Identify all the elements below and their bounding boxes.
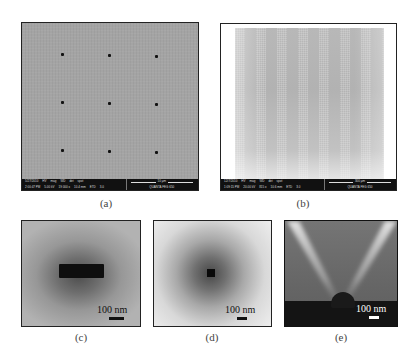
instrument-name: QUANTA FEG 650 (325, 185, 395, 191)
scale-bar-line (237, 317, 247, 320)
info-hv: 5.00 kV (42, 185, 56, 190)
info-hv: 20.00 kV (241, 185, 257, 190)
info-spot-label: spot (275, 179, 285, 184)
info-det-label: det (67, 179, 75, 184)
scale-bar: 300 µm (325, 179, 395, 185)
info-mag-label: mag (248, 179, 258, 184)
nanohole (108, 54, 111, 57)
caption-a: (a) (91, 197, 121, 209)
panel-b-sem-image: 12/7/2010 HV mag WD det spot 1:09:15 PM … (220, 23, 397, 191)
caption-d: (d) (197, 331, 227, 343)
scale-label: 300 µm (353, 179, 367, 184)
info-date: 12/7/2010 (222, 179, 239, 184)
info-spot-label: spot (76, 179, 86, 184)
rectangular-slot (59, 264, 104, 278)
info-mag-label: mag (49, 179, 59, 184)
scale-bar: 100 nm (225, 304, 255, 315)
info-spot: 3.0 (98, 185, 106, 190)
square-hole (207, 269, 215, 277)
nanohole (108, 150, 111, 153)
panel-c-slot-nanohole: 100 nm (21, 220, 141, 327)
info-det: ETD (88, 185, 98, 190)
nanohole (155, 103, 158, 106)
info-time: 1:09:15 PM (222, 185, 241, 190)
nanohole (61, 53, 64, 56)
panel-e-nanotip-cross-section: 100 nm (284, 220, 398, 327)
info-wd: 10.4 mm (72, 185, 88, 190)
info-wd-label: WD (58, 179, 67, 184)
scale-label: 10 µm (156, 179, 168, 184)
info-det: ETD (284, 185, 294, 190)
scale-bar: 100 nm (97, 304, 127, 315)
nanohole (61, 101, 64, 104)
info-date: 5/27/2010 (23, 179, 40, 184)
substrate-texture (22, 23, 198, 190)
scale-label: 100 nm (225, 304, 255, 315)
panel-a-sem-image: 5/27/2010 HV mag WD det spot 2:00:47 PM … (21, 22, 199, 191)
nanohole (155, 151, 158, 154)
info-det-label: det (266, 179, 274, 184)
info-hv-label: HV (239, 179, 247, 184)
scale-label: 100 nm (97, 304, 127, 315)
info-mag: 19 000 x (57, 185, 73, 190)
caption-c: (c) (66, 331, 96, 343)
sem-info-bar: 12/7/2010 HV mag WD det spot 1:09:15 PM … (221, 179, 396, 190)
info-wd-label: WD (257, 179, 266, 184)
scale-bar-line (109, 317, 124, 320)
sem-info-bar: 5/27/2010 HV mag WD det spot 2:00:47 PM … (22, 179, 198, 190)
info-mag: 815 x (257, 185, 268, 190)
nanohole (155, 55, 158, 58)
scale-bar-line (369, 316, 379, 319)
info-hv-label: HV (40, 179, 48, 184)
info-time: 2:00:47 PM (23, 185, 42, 190)
scale-bar: 10 µm (127, 179, 197, 185)
panel-d-square-nanohole: 100 nm (153, 220, 272, 327)
scale-label: 100 nm (356, 303, 386, 314)
info-spot: 3.0 (294, 185, 302, 190)
caption-b: (b) (288, 197, 318, 209)
instrument-name: QUANTA FEG 650 (127, 185, 197, 191)
info-wd: 10.6 mm (269, 185, 285, 190)
scale-bar: 100 nm (356, 303, 386, 314)
caption-e: (e) (326, 331, 356, 343)
nanohole-array-area (235, 28, 384, 181)
nanohole (61, 149, 64, 152)
nanohole (108, 102, 111, 105)
